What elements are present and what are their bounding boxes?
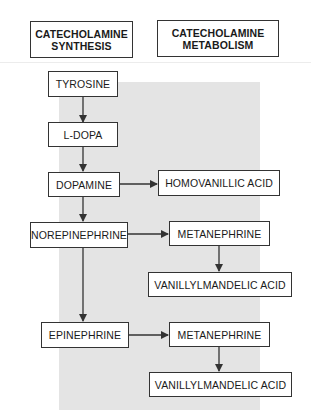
- node-norepinephrine-label: NOREPINEPHRINE: [31, 229, 127, 241]
- node-epinephrine: EPINEPHRINE: [41, 322, 129, 348]
- node-dopamine: DOPAMINE: [48, 172, 120, 197]
- node-tyrosine: TYROSINE: [48, 71, 118, 97]
- node-vma-1-label: VANILLYLMANDELIC ACID: [154, 279, 285, 291]
- node-vma-1: VANILLYLMANDELIC ACID: [148, 272, 292, 297]
- node-dopamine-label: DOPAMINE: [56, 179, 112, 191]
- node-metanephrine-2-label: METANEPHRINE: [178, 329, 262, 341]
- node-metanephrine-2: METANEPHRINE: [169, 322, 270, 347]
- node-tyrosine-label: TYROSINE: [56, 78, 110, 90]
- node-epinephrine-label: EPINEPHRINE: [49, 329, 121, 341]
- arrows-layer: [0, 0, 311, 415]
- node-homovanillic-acid: HOMOVANILLIC ACID: [158, 170, 280, 196]
- node-ldopa-label: L-DOPA: [64, 129, 103, 141]
- node-ldopa: L-DOPA: [48, 122, 118, 147]
- node-homovanillic-acid-label: HOMOVANILLIC ACID: [165, 177, 273, 189]
- node-vma-2-label: VANILLYLMANDELIC ACID: [155, 379, 286, 391]
- node-norepinephrine: NOREPINEPHRINE: [30, 222, 128, 248]
- node-vma-2: VANILLYLMANDELIC ACID: [149, 372, 292, 397]
- node-metanephrine-1-label: METANEPHRINE: [178, 228, 262, 240]
- node-metanephrine-1: METANEPHRINE: [169, 221, 270, 246]
